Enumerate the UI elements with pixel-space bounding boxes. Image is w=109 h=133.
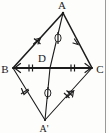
geometry-canvas: A B C D A' xyxy=(0,0,109,133)
segment-AC xyxy=(63,13,92,68)
vertex-label-d: D xyxy=(38,52,46,64)
vertex-label-b: B xyxy=(1,63,8,75)
vertex-dot-a-prime xyxy=(44,119,46,121)
vertex-label-c: C xyxy=(96,63,103,75)
segment-A-prime-C xyxy=(45,68,92,120)
geometry-figure: A B C D A' xyxy=(0,0,109,133)
vertex-label-a: A xyxy=(58,0,66,11)
vertex-label-a-prime: A' xyxy=(39,123,48,133)
segment-BA-prime xyxy=(13,68,45,120)
vertex-dot-a xyxy=(62,12,64,14)
circle-mark-da-prime xyxy=(45,87,51,99)
